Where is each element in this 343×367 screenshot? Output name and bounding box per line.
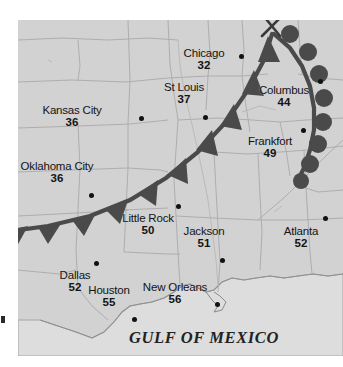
city-dot bbox=[301, 128, 306, 133]
city-temperature: 49 bbox=[248, 148, 292, 160]
city-temperature: 36 bbox=[42, 117, 101, 129]
city-temperature: 52 bbox=[284, 238, 318, 250]
city-dot bbox=[220, 258, 225, 263]
city-dot bbox=[139, 116, 144, 121]
city-dot bbox=[215, 302, 220, 307]
city-temperature: 37 bbox=[164, 94, 204, 106]
gulf-of-mexico-label: GULF OF MEXICO bbox=[129, 328, 279, 348]
city-temperature: 44 bbox=[259, 97, 309, 109]
city-temperature: 51 bbox=[184, 238, 225, 250]
city-label-chicago: Chicago 32 bbox=[184, 48, 225, 71]
city-name: Little Rock bbox=[122, 213, 174, 225]
city-temperature: 50 bbox=[122, 225, 174, 237]
weather-map-screenshot: Chicago 32 St Louis 37 Columbus 44 Kansa… bbox=[0, 0, 343, 367]
city-dot bbox=[176, 204, 181, 209]
city-temperature: 32 bbox=[184, 60, 225, 72]
city-label-dallas: Dallas 52 bbox=[60, 270, 91, 293]
city-name: New Orleans bbox=[143, 282, 207, 294]
city-label-kansas-city: Kansas City 36 bbox=[42, 105, 101, 128]
city-label-new-orleans: New Orleans 56 bbox=[143, 282, 207, 305]
city-dot bbox=[89, 193, 94, 198]
city-temperature: 36 bbox=[21, 173, 94, 185]
city-label-columbus: Columbus 44 bbox=[259, 85, 309, 108]
city-label-houston: Houston 55 bbox=[88, 285, 129, 308]
city-temperature: 52 bbox=[60, 282, 91, 294]
city-label-atlanta: Atlanta 52 bbox=[284, 226, 318, 249]
city-dot bbox=[318, 79, 323, 84]
city-temperature: 55 bbox=[88, 297, 129, 309]
city-name: St Louis bbox=[164, 82, 204, 94]
city-dot bbox=[323, 216, 328, 221]
city-dot bbox=[203, 115, 208, 120]
city-label-frankfort: Frankfort 49 bbox=[248, 136, 292, 159]
city-name: Columbus bbox=[259, 85, 309, 97]
map-graphics bbox=[18, 20, 343, 356]
city-name: Frankfort bbox=[248, 136, 292, 148]
city-dot bbox=[239, 54, 244, 59]
city-label-jackson: Jackson 51 bbox=[184, 226, 225, 249]
city-dot bbox=[132, 317, 137, 322]
weather-map: Chicago 32 St Louis 37 Columbus 44 Kansa… bbox=[18, 20, 343, 356]
city-name: Dallas bbox=[60, 270, 91, 282]
city-name: Kansas City bbox=[42, 105, 101, 117]
city-name: Houston bbox=[88, 285, 129, 297]
city-name: Chicago bbox=[184, 48, 225, 60]
city-dot bbox=[94, 261, 99, 266]
city-label-little-rock: Little Rock 50 bbox=[122, 213, 174, 236]
city-name: Atlanta bbox=[284, 226, 318, 238]
city-temperature: 56 bbox=[143, 294, 207, 306]
city-label-st-louis: St Louis 37 bbox=[164, 82, 204, 105]
page-edge-mark bbox=[1, 316, 5, 323]
city-label-oklahoma-city: Oklahoma City 36 bbox=[21, 161, 94, 184]
city-name: Jackson bbox=[184, 226, 225, 238]
city-name: Oklahoma City bbox=[21, 161, 94, 173]
